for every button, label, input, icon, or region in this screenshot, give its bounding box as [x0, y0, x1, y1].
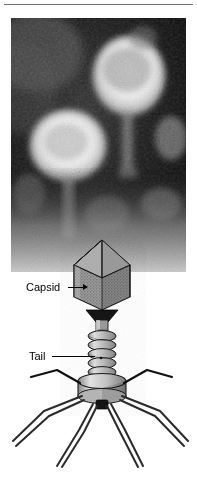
phage-drawing	[0, 0, 197, 481]
capsid-arrow-icon	[83, 284, 88, 290]
phage-schematic-diagram	[0, 0, 197, 481]
figure-root: Capsid Tail	[0, 0, 197, 481]
capsid-label: Capsid	[26, 281, 60, 293]
tail-leader-line	[52, 356, 95, 357]
capsid-head	[74, 240, 130, 310]
tail-label: Tail	[29, 350, 46, 362]
collar-and-neck	[86, 310, 118, 332]
capsid-leader-line	[68, 287, 84, 288]
baseplate	[78, 374, 126, 410]
